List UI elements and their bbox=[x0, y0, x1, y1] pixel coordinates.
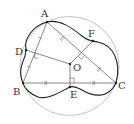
point-a bbox=[46, 21, 48, 23]
right-angle-ac bbox=[79, 56, 85, 60]
point-f bbox=[92, 40, 94, 42]
label-b: B bbox=[13, 86, 20, 97]
segment-of bbox=[70, 41, 93, 64]
right-angle-bc bbox=[70, 78, 74, 83]
label-e: E bbox=[70, 89, 77, 100]
label-d: D bbox=[15, 46, 23, 57]
circumcircle bbox=[20, 17, 119, 116]
label-a: A bbox=[40, 8, 49, 19]
segment-od bbox=[26, 50, 70, 64]
label-c: C bbox=[118, 80, 126, 91]
geometry-diagram: A B C D E F O bbox=[0, 0, 134, 124]
point-d bbox=[25, 49, 27, 51]
point-c bbox=[115, 82, 117, 84]
point-e bbox=[69, 86, 71, 88]
label-f: F bbox=[88, 28, 95, 39]
point-o bbox=[69, 63, 71, 65]
point-b bbox=[22, 82, 24, 84]
label-o: O bbox=[73, 62, 81, 73]
